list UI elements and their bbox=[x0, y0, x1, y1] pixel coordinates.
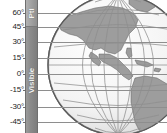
earth-globe bbox=[43, 0, 167, 133]
status-segment-partial[interactable]: Ptl bbox=[26, 0, 37, 27]
latitude-tick-mark bbox=[23, 122, 26, 123]
latitude-tick-mark bbox=[23, 13, 26, 14]
latitude-tick-mark bbox=[23, 42, 26, 43]
latitude-tick-label: -45° bbox=[10, 118, 24, 126]
visibility-latitude-chart: Ptl Visible 60°45°30°15°0°-15°-30°-45° bbox=[0, 0, 167, 133]
status-segment-visible-label: Visible bbox=[27, 67, 36, 93]
latitude-tick-label: -15° bbox=[10, 86, 24, 94]
latitude-tick-mark bbox=[23, 27, 26, 28]
visibility-status-bar[interactable]: Ptl Visible bbox=[25, 0, 38, 133]
status-segment-visible[interactable]: Visible bbox=[26, 27, 37, 133]
latitude-axis: 60°45°30°15°0°-15°-30°-45° bbox=[0, 0, 25, 133]
latitude-tick-label: -30° bbox=[10, 103, 24, 111]
latitude-tick-mark bbox=[23, 58, 26, 59]
latitude-tick-mark bbox=[23, 90, 26, 91]
globe-svg bbox=[43, 0, 167, 133]
latitude-tick-mark bbox=[23, 107, 26, 108]
latitude-tick-mark bbox=[23, 74, 26, 75]
status-segment-partial-label: Ptl bbox=[27, 8, 36, 18]
